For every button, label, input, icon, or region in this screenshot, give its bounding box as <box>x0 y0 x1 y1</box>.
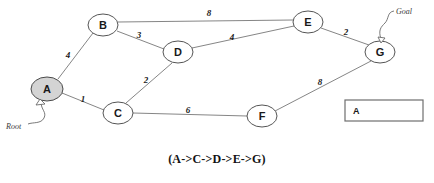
edge-b-e <box>118 20 293 22</box>
edge-weight-b-d: 3 <box>136 30 142 40</box>
node-e[interactable]: E <box>293 11 323 33</box>
node-c-label: C <box>114 107 122 119</box>
node-b[interactable]: B <box>88 14 118 36</box>
edge-weight-f-g: 8 <box>318 77 323 87</box>
goal-annotation-label: Goal <box>396 7 413 16</box>
stack-panel: A <box>345 100 423 121</box>
node-d-label: D <box>174 46 182 58</box>
edge-c-d <box>126 63 172 103</box>
goal-pointer-line <box>380 11 394 39</box>
node-g-label: G <box>376 46 385 58</box>
edge-weight-b-e: 8 <box>207 8 212 18</box>
node-a-label: A <box>43 83 51 95</box>
path-caption: (A->C->D->E->G) <box>0 152 434 167</box>
edge-d-e <box>192 26 294 48</box>
edge-weight-e-g: 2 <box>343 27 349 37</box>
edge-weight-a-b: 4 <box>65 50 71 60</box>
goal-annotation: Goal <box>378 7 413 44</box>
node-b-label: B <box>99 19 107 31</box>
diagram-canvas: 4 1 8 3 2 6 4 2 8 A B C D E <box>0 0 434 183</box>
node-d[interactable]: D <box>163 41 193 63</box>
node-a[interactable]: A <box>31 77 63 101</box>
node-g[interactable]: G <box>365 41 395 63</box>
edge-weight-d-e: 4 <box>229 32 235 42</box>
node-f[interactable]: F <box>247 105 277 127</box>
edge-weight-a-c: 1 <box>81 94 86 104</box>
edge-weight-c-d: 2 <box>143 75 149 85</box>
edge-a-b <box>58 33 93 79</box>
node-c[interactable]: C <box>103 102 133 124</box>
node-f-label: F <box>259 110 266 122</box>
root-annotation: Root <box>5 99 45 131</box>
stack-item-0: A <box>353 106 360 116</box>
edge-weight-c-f: 6 <box>186 105 191 115</box>
root-annotation-label: Root <box>5 122 22 131</box>
node-e-label: E <box>304 16 311 28</box>
